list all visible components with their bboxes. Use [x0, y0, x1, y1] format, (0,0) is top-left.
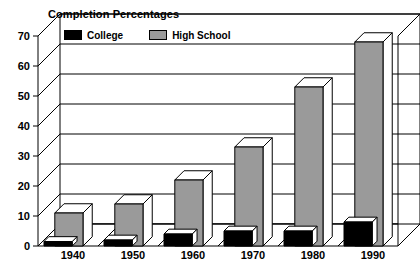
legend-swatch-college	[64, 30, 82, 40]
legend-entry-high-school: High School	[149, 30, 230, 41]
y-axis: 010203040506070	[0, 0, 30, 273]
legend-label-high-school: High School	[172, 30, 230, 41]
y-axis-tick-20: 20	[2, 181, 30, 192]
y-axis-tick-30: 30	[2, 151, 30, 162]
chart-title: Completion Percentages	[48, 8, 179, 20]
y-axis-tick-50: 50	[2, 91, 30, 102]
y-axis-tick-60: 60	[2, 61, 30, 72]
x-axis-tick-1940: 1940	[51, 250, 95, 261]
legend-entry-college: College	[64, 30, 123, 41]
x-axis-tick-1980: 1980	[291, 250, 335, 261]
legend-label-college: College	[87, 30, 123, 41]
chart-legend: College High School	[64, 28, 230, 42]
y-axis-tick-70: 70	[2, 31, 30, 42]
x-axis-tick-1950: 1950	[111, 250, 155, 261]
x-axis-tick-1970: 1970	[231, 250, 275, 261]
x-axis-tick-1960: 1960	[171, 250, 215, 261]
legend-spacer	[123, 35, 149, 36]
y-axis-tick-40: 40	[2, 121, 30, 132]
bar-chart: 010203040506070 194019501960197019801990…	[0, 0, 420, 273]
x-axis: 194019501960197019801990	[0, 250, 420, 268]
y-axis-tick-10: 10	[2, 211, 30, 222]
legend-swatch-high-school	[149, 30, 167, 40]
x-axis-tick-1990: 1990	[351, 250, 395, 261]
